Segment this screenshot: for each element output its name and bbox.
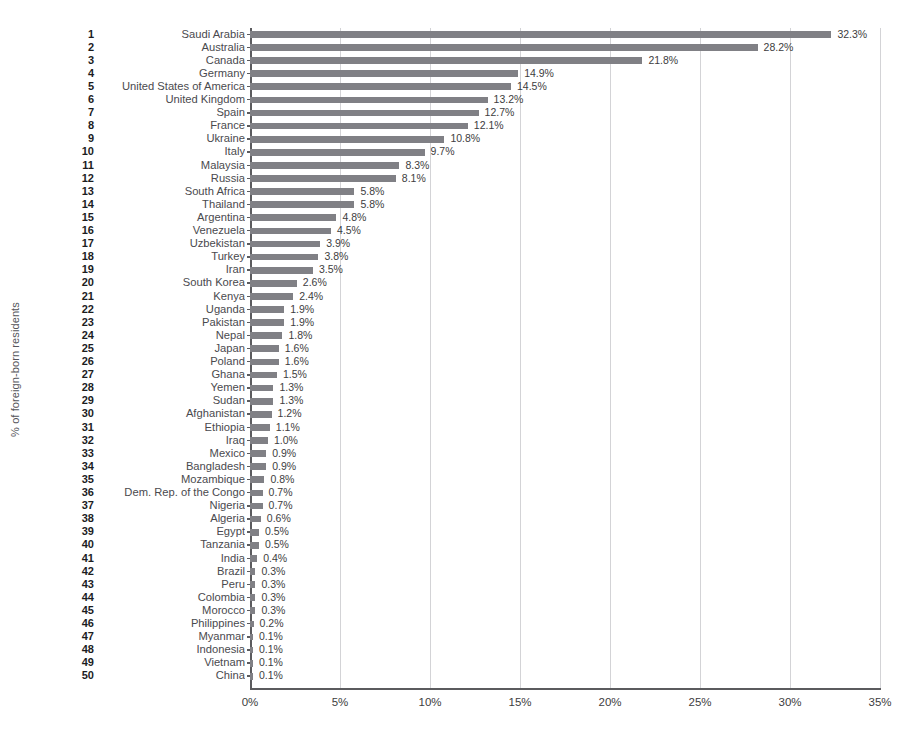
rank-label: 45 — [68, 604, 94, 617]
bar-row: 15Argentina4.8% — [250, 211, 880, 224]
bar — [250, 372, 277, 379]
rank-label: 21 — [68, 290, 94, 303]
bar-row: 25Japan1.6% — [250, 342, 880, 355]
bar-value-label: 12.7% — [485, 106, 515, 119]
bar-row: 11Malaysia8.3% — [250, 159, 880, 172]
bar — [250, 267, 313, 274]
bar-value-label: 0.1% — [259, 669, 283, 682]
bar — [250, 136, 444, 143]
bar-value-label: 10.8% — [450, 132, 480, 145]
bar-row: 20South Korea2.6% — [250, 277, 880, 290]
bar-value-label: 0.1% — [259, 630, 283, 643]
rank-label: 12 — [68, 172, 94, 185]
bar — [250, 503, 263, 510]
bar-row: 49Vietnam0.1% — [250, 657, 880, 670]
rank-label: 2 — [68, 41, 94, 54]
bar-row: 2Australia28.2% — [250, 41, 880, 54]
bar-row: 26Poland1.6% — [250, 356, 880, 369]
bar-row: 1Saudi Arabia32.3% — [250, 28, 880, 41]
category-label: Poland — [94, 355, 245, 368]
bar-value-label: 28.2% — [764, 41, 794, 54]
rank-label: 32 — [68, 434, 94, 447]
gridline-35% — [880, 28, 881, 688]
bar-row: 32Iraq1.0% — [250, 434, 880, 447]
bar — [250, 385, 273, 392]
bar-row: 9Ukraine10.8% — [250, 133, 880, 146]
bar-value-label: 1.6% — [285, 355, 309, 368]
bar — [250, 490, 263, 497]
plot-area: 1Saudi Arabia32.3%2Australia28.2%3Canada… — [250, 28, 880, 688]
category-label: Russia — [94, 172, 245, 185]
category-label: Mexico — [94, 447, 245, 460]
category-label: Philippines — [94, 617, 245, 630]
bar — [250, 280, 297, 287]
bar-value-label: 32.3% — [837, 28, 867, 41]
rank-label: 37 — [68, 499, 94, 512]
bar — [250, 581, 255, 588]
rank-label: 50 — [68, 669, 94, 682]
rank-label: 11 — [68, 159, 94, 172]
category-label: Germany — [94, 67, 245, 80]
bar-value-label: 14.5% — [517, 80, 547, 93]
rank-label: 33 — [68, 447, 94, 460]
category-label: Yemen — [94, 381, 245, 394]
category-label: Iraq — [94, 434, 245, 447]
bar — [250, 162, 399, 169]
rank-label: 25 — [68, 342, 94, 355]
bar — [250, 31, 831, 38]
rank-label: 26 — [68, 355, 94, 368]
y-axis-title: % of foreign-born residents — [0, 0, 30, 739]
category-label: Argentina — [94, 211, 245, 224]
rank-label: 40 — [68, 538, 94, 551]
bar — [250, 175, 396, 182]
bar-row: 47Myanmar0.1% — [250, 631, 880, 644]
bar-row: 40Tanzania0.5% — [250, 539, 880, 552]
bar-row: 36Dem. Rep. of the Congo0.7% — [250, 487, 880, 500]
bar-value-label: 0.3% — [261, 604, 285, 617]
rank-label: 30 — [68, 407, 94, 420]
bar-value-label: 0.4% — [263, 552, 287, 565]
bar-row: 28Yemen1.3% — [250, 382, 880, 395]
rank-label: 22 — [68, 303, 94, 316]
category-label: Myanmar — [94, 630, 245, 643]
bar-value-label: 1.3% — [279, 394, 303, 407]
category-label: Japan — [94, 342, 245, 355]
bar — [250, 516, 261, 523]
category-label: Italy — [94, 145, 245, 158]
bar — [250, 463, 266, 470]
bar-row: 8France12.1% — [250, 120, 880, 133]
bar-value-label: 0.3% — [261, 591, 285, 604]
x-tick-label: 0% — [242, 696, 259, 708]
bar-row: 30Afghanistan1.2% — [250, 408, 880, 421]
bar-value-label: 0.9% — [272, 447, 296, 460]
x-tick-label: 5% — [332, 696, 349, 708]
rank-label: 15 — [68, 211, 94, 224]
bar — [250, 437, 268, 444]
bar-row: 46Philippines0.2% — [250, 618, 880, 631]
bar-row: 7Spain12.7% — [250, 107, 880, 120]
rank-label: 23 — [68, 316, 94, 329]
bar-value-label: 21.8% — [648, 54, 678, 67]
category-label: Kenya — [94, 290, 245, 303]
rank-label: 5 — [68, 80, 94, 93]
rank-label: 35 — [68, 473, 94, 486]
bar — [250, 44, 758, 51]
category-label: India — [94, 552, 245, 565]
bar — [250, 607, 255, 614]
bar-row: 34Bangladesh0.9% — [250, 460, 880, 473]
rank-label: 28 — [68, 381, 94, 394]
bar — [250, 529, 259, 536]
bar-row: 19Iran3.5% — [250, 264, 880, 277]
category-label: Ukraine — [94, 132, 245, 145]
bar — [250, 188, 354, 195]
bar-row: 38Algeria0.6% — [250, 513, 880, 526]
bar-value-label: 1.8% — [288, 329, 312, 342]
x-tick-label: 10% — [418, 696, 441, 708]
bar — [250, 306, 284, 313]
bar-row: 5United States of America14.5% — [250, 80, 880, 93]
bar-row: 21Kenya2.4% — [250, 290, 880, 303]
category-label: Uzbekistan — [94, 237, 245, 250]
category-label: Sudan — [94, 394, 245, 407]
category-label: Uganda — [94, 303, 245, 316]
bar-value-label: 0.9% — [272, 460, 296, 473]
